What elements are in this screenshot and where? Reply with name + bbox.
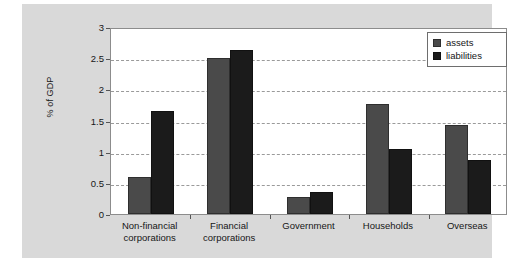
legend-item-assets: assets [433, 36, 501, 49]
x-axis-category-label-line: Overseas [417, 220, 513, 232]
bar-liabilities-2 [310, 192, 333, 214]
legend-label-liabilities: liabilities [446, 51, 482, 61]
chart-legend: assets liabilities [427, 32, 507, 67]
legend-item-liabilities: liabilities [433, 49, 501, 62]
y-axis-title: % of GDP [45, 57, 55, 137]
y-axis-tick-label: 2 [64, 85, 104, 95]
y-axis-tick-label: 1 [64, 148, 104, 158]
x-axis-tick-mark [349, 215, 350, 219]
bar-assets-1 [207, 58, 230, 214]
y-axis-tick-label: 3 [64, 23, 104, 33]
x-axis-tick-mark [190, 215, 191, 219]
y-axis-tick-label: 0.5 [64, 179, 104, 189]
x-axis-category-label-line: corporations [179, 232, 279, 244]
y-axis-tick-label: 1.5 [64, 117, 104, 127]
legend-swatch-liabilities-icon [433, 52, 441, 60]
gridline [111, 91, 506, 92]
bar-liabilities-0 [151, 111, 174, 214]
bar-assets-3 [366, 104, 389, 214]
legend-label-assets: assets [446, 38, 473, 48]
bar-liabilities-1 [230, 50, 253, 214]
y-axis-tick-label: 0 [64, 210, 104, 220]
x-axis-category-label: Overseas [417, 220, 513, 232]
y-axis-tick-label: 2.5 [64, 54, 104, 64]
chart-figure-panel: % of GDP 00.511.522.53 Non-financialcorp… [22, 4, 492, 258]
bar-assets-2 [287, 197, 310, 214]
legend-swatch-assets-icon [433, 39, 441, 47]
bar-liabilities-3 [389, 149, 412, 214]
bar-liabilities-4 [468, 160, 491, 214]
y-axis-tick-mark [106, 215, 110, 216]
x-axis-tick-mark [429, 215, 430, 219]
x-axis-tick-mark [270, 215, 271, 219]
bar-assets-4 [445, 125, 468, 214]
bar-assets-0 [128, 177, 151, 214]
